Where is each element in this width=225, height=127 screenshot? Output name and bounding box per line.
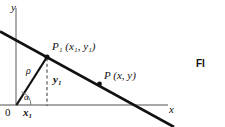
figure-caption: FI [196,58,205,69]
y1-label: y₁ [53,74,62,85]
alpha-label: α [24,93,29,102]
point-marker-p [97,82,102,87]
point-label-p1: P₁ (x₁, y₁) [52,41,96,52]
figure-container: y x 0 P₁ (x₁, y₁) P (x, y) ρ α y₁ x₁ FI [0,0,225,127]
origin-label: 0 [5,107,11,118]
rho-label: ρ [26,66,31,76]
x-axis-label: x [169,104,174,115]
point-label-p: P (x, y) [104,70,136,81]
radius-vector-segment [17,57,48,105]
point-marker-p1 [44,54,49,59]
y-axis-label: y [11,2,16,13]
geometry-diagram [0,0,225,127]
x1-label: x₁ [23,107,32,118]
